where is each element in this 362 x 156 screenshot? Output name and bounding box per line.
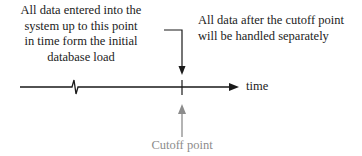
timeline-axis: [20, 80, 232, 94]
after-cutoff-note-line: will be handled separately: [198, 29, 362, 45]
cutoff-arrowhead-icon: [178, 104, 186, 114]
cutoff-point-label: Cutoff point: [141, 138, 223, 154]
leader-line: [164, 30, 182, 68]
after-cutoff-note: All data after the cutoff point will be …: [198, 13, 362, 44]
time-axis-label: time: [246, 79, 268, 95]
initial-load-note-line: All data entered into the: [2, 3, 160, 19]
initial-load-note-line: system up to this point: [2, 19, 160, 35]
timeline-arrowhead-icon: [229, 83, 239, 91]
after-cutoff-note-line: All data after the cutoff point: [198, 13, 362, 29]
initial-load-note-line: database load: [2, 50, 160, 66]
leader-arrowhead-icon: [179, 66, 186, 75]
initial-load-note-line: in time form the initial: [2, 34, 160, 50]
initial-load-note: All data entered into the system up to t…: [2, 3, 160, 65]
